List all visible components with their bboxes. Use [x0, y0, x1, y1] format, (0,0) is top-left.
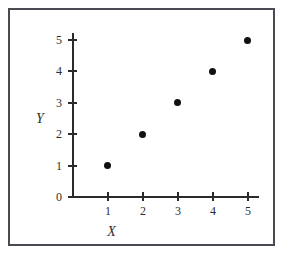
y-axis-line	[72, 33, 74, 198]
data-point	[174, 99, 181, 106]
data-point	[244, 37, 251, 44]
y-axis-tick-label: 5	[46, 34, 62, 46]
y-axis-tick	[68, 39, 77, 41]
y-axis-tick	[68, 70, 77, 72]
x-axis-tick-label: 1	[100, 205, 116, 217]
y-axis-tick	[68, 165, 77, 167]
x-axis-title: X	[0, 225, 283, 239]
x-axis-tick-label: 3	[170, 205, 186, 217]
x-axis-line	[72, 196, 259, 198]
x-axis-tick	[107, 192, 109, 201]
data-point	[104, 162, 111, 169]
y-axis-tick-label: 0	[46, 191, 62, 203]
x-axis-tick	[142, 192, 144, 201]
y-axis-tick	[68, 102, 77, 104]
y-axis-tick	[68, 133, 77, 135]
x-axis-tick	[247, 192, 249, 201]
x-axis-tick-label: 5	[240, 205, 256, 217]
x-axis-tick	[177, 192, 179, 201]
x-axis-tick-label: 4	[205, 205, 221, 217]
y-axis-tick-label: 3	[46, 97, 62, 109]
x-axis-tick	[212, 192, 214, 201]
y-axis-title: Y	[36, 112, 44, 126]
data-point	[209, 68, 216, 75]
plot-area: 0 1 2 3 4 5 1 2 3 4 5 X Y	[0, 0, 283, 258]
y-axis-tick-label: 2	[46, 128, 62, 140]
y-axis-tick-label: 1	[46, 160, 62, 172]
y-axis-tick-label: 4	[46, 65, 62, 77]
x-axis-tick-label: 2	[135, 205, 151, 217]
data-point	[139, 131, 146, 138]
scatter-plot-figure: 0 1 2 3 4 5 1 2 3 4 5 X Y	[0, 0, 283, 258]
y-axis-tick	[68, 196, 77, 198]
